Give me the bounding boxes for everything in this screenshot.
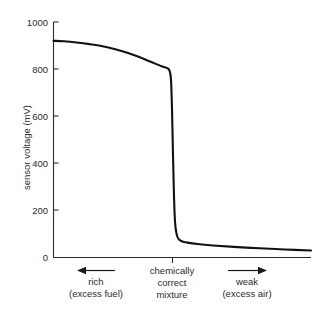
y-tick-label-600: 600 — [32, 111, 48, 122]
arrow-left-icon — [77, 267, 86, 274]
weak-label-line-1: weak — [235, 276, 258, 287]
sensor-voltage-curve — [54, 41, 312, 251]
rich-label-line-2: (excess fuel) — [69, 288, 123, 299]
x-axis — [54, 258, 312, 264]
rich-label-line-1: rich — [88, 276, 103, 287]
weak-label-line-2: (excess air) — [222, 288, 271, 299]
annotation-stoichiometric-point: chemically correct mixture — [150, 265, 195, 300]
stoichiometric-label-line-2: correct — [157, 277, 186, 288]
stoichiometric-label-line-1: chemically — [150, 265, 195, 276]
annotation-rich-region: rich (excess fuel) — [69, 267, 123, 299]
y-tick-label-0: 0 — [43, 252, 48, 263]
data-series-sensor-voltage — [54, 41, 312, 251]
chart-canvas: 1000 800 600 400 200 0 sensor voltage (m… — [0, 0, 320, 318]
y-axis-title: sensor voltage (mV) — [21, 105, 32, 190]
sensor-voltage-chart: 1000 800 600 400 200 0 sensor voltage (m… — [0, 0, 320, 318]
y-axis: 1000 800 600 400 200 0 sensor voltage (m… — [21, 17, 59, 263]
arrow-right-icon — [258, 267, 267, 274]
y-tick-label-800: 800 — [32, 64, 48, 75]
annotation-weak-region: weak (excess air) — [222, 267, 271, 299]
y-tick-label-200: 200 — [32, 205, 48, 216]
y-tick-label-400: 400 — [32, 158, 48, 169]
stoichiometric-label-line-3: mixture — [156, 289, 187, 300]
y-tick-label-1000: 1000 — [27, 17, 48, 28]
